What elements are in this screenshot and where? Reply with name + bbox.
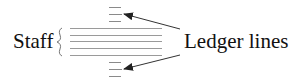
staff-lines (70, 29, 162, 56)
brace-icon (57, 28, 62, 56)
top-ledger-lines (109, 8, 122, 22)
arrow-top (124, 14, 180, 29)
staff-label: Staff (13, 29, 53, 54)
arrow-bottom (124, 55, 180, 69)
ledger-lines-label: Ledger lines (184, 29, 288, 54)
bottom-ledger-lines (109, 63, 122, 77)
staff-diagram: Staff Ledger lines (0, 0, 299, 81)
